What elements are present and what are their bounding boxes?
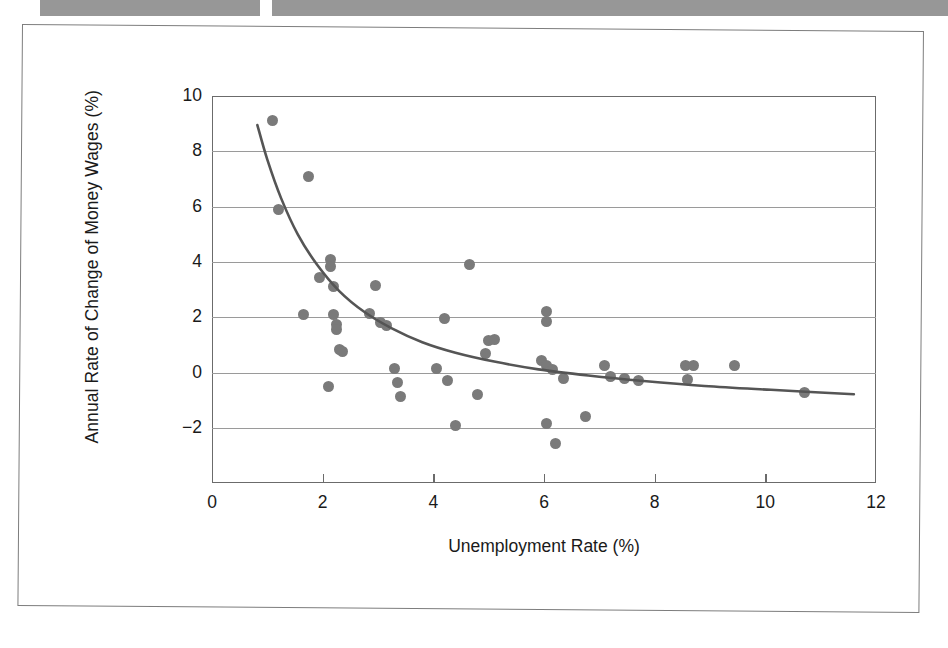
x-axis-tick-label: 8 — [625, 492, 685, 513]
x-axis-tick-label: 6 — [514, 492, 574, 513]
y-axis-tick-label: 0 — [156, 362, 202, 383]
x-axis-tick — [544, 474, 545, 483]
scatter-point — [323, 381, 334, 392]
scatter-point — [364, 308, 375, 319]
y-axis-tick-label: −2 — [156, 417, 202, 438]
y-axis-tick-label: 6 — [156, 196, 202, 217]
y-axis-tick-label: 4 — [156, 251, 202, 272]
scatter-point — [550, 438, 561, 449]
y-axis-tick-label: 2 — [156, 306, 202, 327]
scatter-point — [337, 346, 348, 357]
y-axis-title: Annual Rate of Change of Money Wages (%) — [82, 114, 103, 444]
scatter-point — [273, 204, 284, 215]
scatter-point — [395, 391, 406, 402]
x-axis-title: Unemployment Rate (%) — [212, 536, 876, 557]
plot-left-axis-lower — [212, 428, 213, 483]
y-axis-tick-label: 8 — [156, 140, 202, 161]
scatter-point — [464, 259, 475, 270]
gridline — [212, 373, 876, 374]
scatter-point — [303, 171, 314, 182]
y-axis-tick-label: 10 — [156, 85, 202, 106]
x-axis-tick-label: 0 — [182, 492, 242, 513]
x-axis-tick — [433, 474, 434, 483]
scatter-point — [450, 420, 461, 431]
plot-right-axis-lower — [875, 428, 876, 483]
scatter-point — [799, 387, 810, 398]
x-axis-tick — [323, 474, 324, 483]
scatter-point — [558, 373, 569, 384]
x-axis-tick — [765, 474, 766, 483]
scatter-point — [370, 280, 381, 291]
scatter-point — [381, 320, 392, 331]
gridline — [212, 207, 876, 208]
scatter-point — [489, 334, 500, 345]
y-axis-tick-labels: 1086420−2 — [150, 0, 202, 648]
scatter-point — [298, 309, 309, 320]
scatter-point — [431, 363, 442, 374]
scatter-point — [633, 375, 644, 386]
scatter-point — [619, 373, 630, 384]
x-axis-tick-label: 10 — [735, 492, 795, 513]
scatter-point — [392, 377, 403, 388]
phillips-curve-figure: Annual Rate of Change of Money Wages (%)… — [0, 0, 948, 648]
gridline — [212, 151, 876, 152]
x-axis-tick — [655, 474, 656, 483]
x-axis-tick-label: 2 — [293, 492, 353, 513]
gridline — [212, 262, 876, 263]
x-axis-tick-label: 4 — [403, 492, 463, 513]
x-axis-tick-label: 12 — [846, 492, 906, 513]
